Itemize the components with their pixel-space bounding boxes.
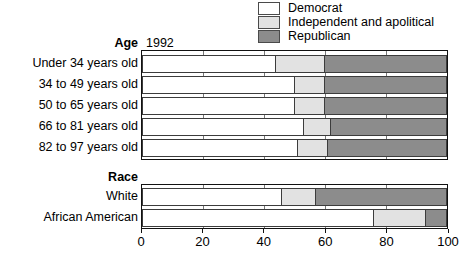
x-axis-tick xyxy=(141,229,142,233)
bar-segment-independent xyxy=(282,188,316,206)
legend-item-republican: Republican xyxy=(258,29,434,43)
x-axis-tick xyxy=(325,229,326,233)
bar-row xyxy=(142,209,447,227)
bar-row xyxy=(142,118,447,136)
bar-segment-independent xyxy=(304,118,331,136)
bar-segment-republican xyxy=(325,76,447,94)
legend-swatch-republican xyxy=(258,30,280,43)
x-axis-tick xyxy=(448,229,449,233)
legend-item-democrat: Democrat xyxy=(258,1,434,15)
bar-segment-republican xyxy=(325,97,447,115)
plot-area-race xyxy=(141,184,448,229)
bar-row xyxy=(142,76,447,94)
bar-segment-independent xyxy=(298,139,329,157)
category-label-age-2: 50 to 65 years old xyxy=(39,98,138,112)
category-label-age-4: 82 to 97 years old xyxy=(39,140,138,154)
bar-segment-republican xyxy=(325,55,447,73)
group-header-race: Race xyxy=(108,170,138,184)
category-label-race-1: African American xyxy=(44,210,138,224)
bar-segment-independent xyxy=(276,55,325,73)
bar-segment-democrat xyxy=(142,188,282,206)
bar-segment-democrat xyxy=(142,139,298,157)
bar-segment-independent xyxy=(295,97,326,115)
legend-swatch-independent xyxy=(258,16,280,29)
bar-segment-independent xyxy=(295,76,326,94)
plot-area-age xyxy=(141,50,448,160)
x-axis-tick xyxy=(263,229,264,233)
x-axis-tick-label: 0 xyxy=(137,234,144,249)
bar-segment-independent xyxy=(374,209,426,227)
bar-segment-republican xyxy=(331,118,447,136)
x-axis-tick-label: 40 xyxy=(257,234,271,249)
bar-row xyxy=(142,139,447,157)
bar-segment-republican xyxy=(426,209,447,227)
category-label-age-1: 34 to 49 years old xyxy=(39,77,138,91)
x-axis-tick xyxy=(386,229,387,233)
x-axis-tick-label: 80 xyxy=(379,234,393,249)
year-label: 1992 xyxy=(146,36,174,50)
bar-segment-democrat xyxy=(142,97,295,115)
bar-row xyxy=(142,188,447,206)
group-header-race-label: Race xyxy=(108,170,138,184)
category-label-age-0: Under 34 years old xyxy=(32,56,138,70)
x-axis-tick xyxy=(202,229,203,233)
bar-segment-republican xyxy=(328,139,447,157)
x-axis: 020406080100 xyxy=(141,229,448,253)
legend-label-democrat: Democrat xyxy=(288,2,342,15)
x-axis-tick-label: 100 xyxy=(437,234,459,249)
x-axis-tick-label: 20 xyxy=(195,234,209,249)
bar-segment-democrat xyxy=(142,76,295,94)
bar-segment-republican xyxy=(316,188,447,206)
stacked-bar-chart: Democrat Independent and apolitical Repu… xyxy=(0,0,467,258)
category-label-age-3: 66 to 81 years old xyxy=(39,119,138,133)
group-header-age: Age xyxy=(114,36,138,50)
legend-label-republican: Republican xyxy=(288,30,351,43)
bar-segment-democrat xyxy=(142,118,304,136)
category-label-race-0: White xyxy=(106,189,138,203)
bar-row xyxy=(142,97,447,115)
bar-row xyxy=(142,55,447,73)
chart-legend: Democrat Independent and apolitical Repu… xyxy=(258,1,434,43)
bar-segment-democrat xyxy=(142,209,374,227)
bar-segment-democrat xyxy=(142,55,276,73)
legend-label-independent: Independent and apolitical xyxy=(288,16,434,29)
legend-item-independent: Independent and apolitical xyxy=(258,15,434,29)
x-axis-tick-label: 60 xyxy=(318,234,332,249)
group-header-age-label: Age xyxy=(114,36,138,50)
legend-swatch-democrat xyxy=(258,2,280,15)
